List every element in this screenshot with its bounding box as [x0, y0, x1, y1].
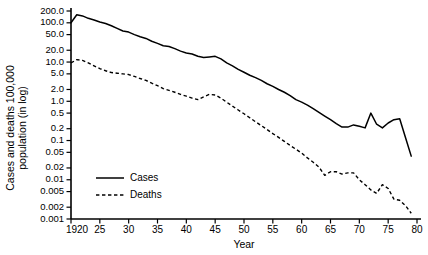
chart-container: Cases and deaths 100,000 population (in …: [0, 0, 428, 255]
y-axis-tick-label: 1.0: [51, 95, 64, 106]
legend-label-cases: Cases: [130, 172, 158, 183]
y-axis-tick-label: 2.0: [51, 83, 64, 94]
y-axis-tick-label: 0.2: [51, 122, 64, 133]
y-axis-tick-label: 0.001: [40, 213, 64, 224]
x-axis-tick-label: 25: [94, 224, 106, 235]
y-axis-title-line2: population (in log): [16, 86, 28, 169]
y-axis-tick-label: 10.0: [46, 56, 65, 67]
x-axis-tick-label: 50: [238, 224, 250, 235]
y-axis-tick-label: 200.0: [40, 5, 64, 16]
x-axis-tick-label: 70: [354, 224, 366, 235]
legend-label-deaths: Deaths: [130, 189, 162, 200]
y-axis-tick-label: 0.5: [51, 107, 64, 118]
y-axis-tick-label: 20.0: [46, 44, 65, 55]
y-axis-tick-label: 0.05: [46, 146, 65, 157]
y-axis-title-line1: Cases and deaths 100,000: [4, 65, 16, 191]
line-chart: Cases and deaths 100,000 population (in …: [0, 0, 428, 255]
x-axis-tick-label: 45: [210, 224, 222, 235]
y-axis-tick-labels: 200.0100.050.020.010.05.02.01.00.50.20.1…: [40, 5, 64, 224]
chart-legend: Cases Deaths: [96, 172, 162, 200]
y-axis-tick-label: 50.0: [46, 28, 65, 39]
y-axis-tick-label: 0.002: [40, 201, 64, 212]
x-axis-tick-label: 40: [181, 224, 193, 235]
x-axis-tick-label: 30: [123, 224, 135, 235]
x-axis-tick-label: 55: [267, 224, 279, 235]
x-axis-tick-label: 65: [325, 224, 337, 235]
y-axis-tick-label: 0.02: [46, 161, 65, 172]
x-axis-tick-label: 1920: [66, 224, 89, 235]
x-axis-tick-labels: 1920253035404550556065707580: [66, 224, 423, 235]
y-axis-tick-label: 0.005: [40, 185, 64, 196]
x-axis-tick-label: 75: [383, 224, 395, 235]
series-line-deaths: [71, 60, 411, 214]
x-axis-title: Year: [233, 238, 255, 250]
y-axis-tick-label: 0.01: [46, 173, 65, 184]
series-line-cases: [71, 15, 411, 156]
y-axis-title-group: Cases and deaths 100,000 population (in …: [4, 65, 28, 191]
x-axis-tick-label: 35: [152, 224, 164, 235]
x-axis-tick-label: 80: [411, 224, 423, 235]
y-axis-tick-label: 0.1: [51, 134, 64, 145]
y-axis-tick-label: 5.0: [51, 67, 64, 78]
x-axis-tick-label: 60: [296, 224, 308, 235]
y-axis-tick-label: 100.0: [40, 16, 64, 27]
